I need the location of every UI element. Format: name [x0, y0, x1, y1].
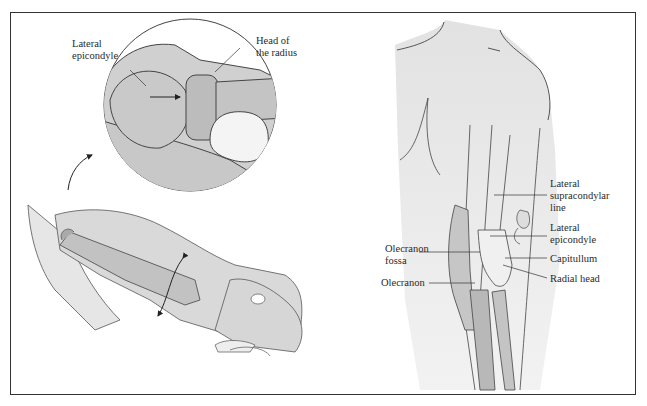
label-capitullum: Capitullum — [550, 253, 597, 265]
label-radial-head: Radial head — [550, 273, 600, 285]
label-head-of-radius: Head of the radius — [256, 35, 297, 59]
label-olecranon-fossa: Olecranon fossa — [385, 243, 429, 267]
curved-pointer-arrow — [68, 155, 92, 190]
label-olecranon: Olecranon — [381, 277, 425, 289]
posterior-arm-illustration — [395, 20, 560, 390]
label-lateral-supracondylar-line: Lateral supracondylar line — [550, 178, 609, 214]
label-lateral-epicondyle: Lateral epicondyle — [550, 222, 596, 246]
label-lateral-epicondyle-inset: Lateral epicondyle — [72, 38, 118, 62]
